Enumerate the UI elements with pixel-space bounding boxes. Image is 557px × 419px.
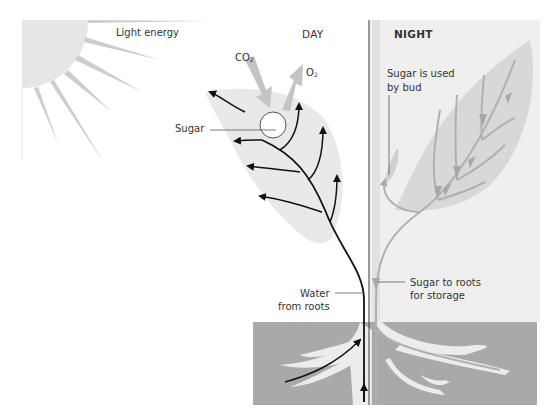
day-heading: DAY [302, 28, 324, 40]
water-label-line1: Water [300, 288, 330, 300]
night-heading: NIGHT [394, 28, 433, 40]
sun-icon [22, 20, 210, 163]
o2-subscript: 2 [314, 71, 318, 78]
sugar-circle [260, 112, 286, 138]
o2-text: O [306, 67, 314, 78]
sugar-label: Sugar [175, 123, 204, 135]
o2-label: O2 [306, 67, 318, 81]
sugar-used-label-line2: by bud [387, 82, 421, 94]
co2-subscript: 2 [250, 56, 254, 63]
sugar-roots-label-line1: Sugar to roots [410, 277, 481, 289]
water-label-line2: from roots [278, 301, 330, 313]
co2-label: CO2 [235, 52, 254, 66]
sugar-roots-label-line2: for storage [410, 290, 465, 302]
sugar-used-label-line1: Sugar is used [387, 68, 455, 80]
co2-text: CO [235, 52, 250, 63]
diagram-canvas [0, 0, 557, 419]
light-energy-label: Light energy [116, 27, 179, 39]
